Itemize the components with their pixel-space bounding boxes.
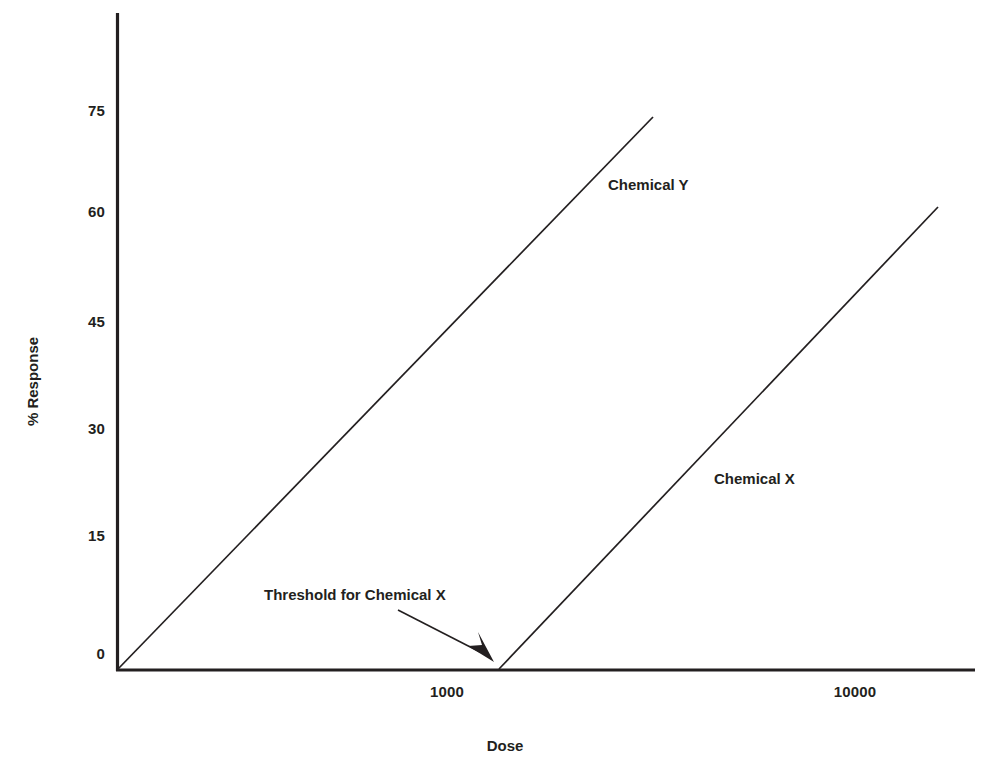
plot-area [0, 0, 998, 772]
series-label-chemical-y: Chemical Y [608, 176, 689, 193]
y-axis-title: % Response [24, 322, 41, 442]
x-tick-label-10000: 10000 [795, 683, 915, 700]
dose-response-chart: 0 15 30 45 60 75 1000 10000 % Response D… [0, 0, 998, 772]
y-tick-label-0: 0 [55, 645, 105, 662]
y-tick-label-60: 60 [55, 203, 105, 220]
series-line-chemical-x [499, 207, 938, 669]
x-tick-label-1000: 1000 [387, 683, 507, 700]
series-label-chemical-x: Chemical X [714, 470, 795, 487]
y-tick-label-15: 15 [55, 527, 105, 544]
threshold-annotation-label: Threshold for Chemical X [264, 586, 446, 603]
threshold-arrow-shaft [398, 610, 480, 652]
y-tick-label-30: 30 [55, 420, 105, 437]
y-tick-label-75: 75 [55, 102, 105, 119]
y-tick-label-45: 45 [55, 313, 105, 330]
x-axis-title: Dose [445, 737, 565, 754]
threshold-arrow-head [468, 632, 494, 662]
